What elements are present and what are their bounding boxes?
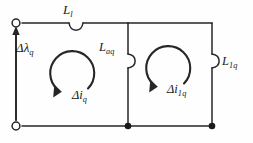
label-leakage-inductor: Ll: [63, 3, 73, 16]
inductor-symbol-Ll: [69, 23, 83, 30]
junction-bottom-middle: [125, 123, 132, 130]
label-flux-linkage-source-subscript: q: [29, 47, 34, 57]
label-flux-linkage-source: Δλq: [16, 41, 34, 54]
left-mesh-arrow-head: [53, 85, 62, 98]
terminal-top-left: [12, 19, 20, 27]
right-mesh-arrow-arc: [146, 46, 190, 84]
circuit-schematic-canvas: [0, 0, 253, 143]
label-magnetizing-inductor-symbol: L: [99, 40, 106, 54]
junction-bottom-right: [209, 123, 216, 130]
inductor-symbol-Laq: [128, 54, 135, 68]
label-damper-inductor-symbol: L: [222, 54, 229, 68]
left-mesh-arrow-arc: [50, 51, 94, 89]
label-mesh-current-right-subscript: 1q: [178, 89, 187, 98]
label-magnetizing-inductor-subscript: aq: [106, 47, 115, 56]
label-mesh-current-left-symbol: Δi: [72, 88, 83, 102]
label-flux-linkage-source-symbol: Δλ: [16, 40, 29, 55]
inductor-symbol-L1q: [212, 54, 219, 68]
label-mesh-current-right-symbol: Δi: [167, 82, 178, 96]
right-mesh-arrow-head: [149, 80, 158, 93]
label-leakage-inductor-subscript: l: [70, 9, 73, 19]
label-mesh-current-left-subscript: q: [83, 95, 87, 104]
label-mesh-current-right: Δi1q: [167, 83, 186, 96]
terminal-bottom-left: [12, 122, 20, 130]
label-damper-inductor-subscript: 1q: [229, 61, 238, 70]
circuit-diagram: Ll Δλq Laq L1q Δiq Δi1q: [0, 0, 253, 143]
label-damper-inductor: L1q: [222, 55, 238, 68]
label-mesh-current-left: Δiq: [72, 89, 87, 102]
label-magnetizing-inductor: Laq: [99, 41, 115, 54]
